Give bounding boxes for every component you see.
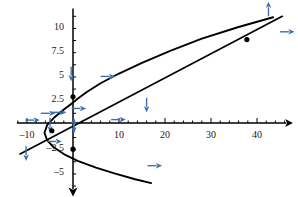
y-tick-label: –2.5 <box>46 142 65 153</box>
tick-labels-group: –1010203040107.552.5–2.5–5 <box>19 21 263 178</box>
x-tick-label: 20 <box>160 129 170 140</box>
x-tick-label: 40 <box>252 129 262 140</box>
marked-points-group <box>49 37 249 152</box>
x-tick-label: –10 <box>19 129 35 140</box>
marked-point <box>49 128 54 133</box>
y-tick-label: 5 <box>59 69 64 80</box>
curve-line <box>20 16 282 154</box>
direction-field-group <box>25 7 289 165</box>
marked-point <box>70 147 75 152</box>
marked-point <box>244 37 249 42</box>
y-tick-label: –5 <box>53 166 64 177</box>
y-tick-label: 2.5 <box>52 93 65 104</box>
x-tick-label: 30 <box>206 129 216 140</box>
x-tick-label: 10 <box>114 129 124 140</box>
curve-parabola <box>44 17 273 183</box>
figure-canvas: –1010203040107.552.5–2.5–5 <box>0 0 298 197</box>
y-tick-label: 7.5 <box>52 45 65 56</box>
y-tick-label: 10 <box>54 21 64 32</box>
math-plot: –1010203040107.552.5–2.5–5 <box>0 0 298 197</box>
marked-point <box>70 94 75 99</box>
